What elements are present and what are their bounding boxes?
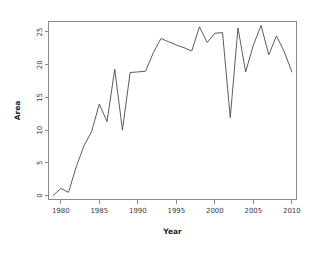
y-tick-label: 0 bbox=[37, 193, 45, 197]
x-tick-label: 1990 bbox=[129, 207, 147, 215]
y-axis-title: Area bbox=[13, 101, 22, 121]
x-tick-label: 1980 bbox=[52, 207, 70, 215]
chart-figure: 0510152025 1980198519901995200020052010 … bbox=[0, 0, 317, 255]
y-tick-label: 25 bbox=[37, 28, 45, 37]
y-tick-label: 10 bbox=[37, 126, 45, 135]
x-tick-label: 2000 bbox=[206, 207, 224, 215]
y-tick-label: 5 bbox=[37, 161, 45, 165]
x-axis-title: Year bbox=[162, 227, 182, 236]
y-tick-label: 15 bbox=[37, 93, 45, 102]
x-tick-label: 2010 bbox=[283, 207, 301, 215]
y-tick-label: 20 bbox=[37, 60, 45, 69]
chart-background bbox=[0, 0, 317, 255]
x-tick-label: 1985 bbox=[90, 207, 108, 215]
x-tick-label: 1995 bbox=[167, 207, 185, 215]
x-tick-label: 2005 bbox=[244, 207, 262, 215]
line-chart-canvas: 0510152025 1980198519901995200020052010 … bbox=[0, 0, 317, 255]
